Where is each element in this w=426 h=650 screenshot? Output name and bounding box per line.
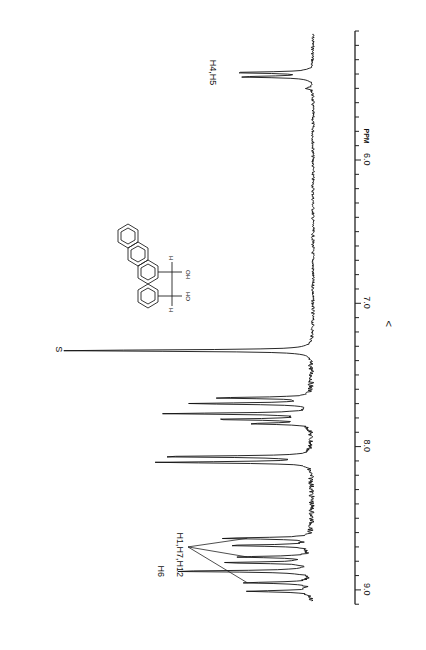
nmr-spectrum-chart: 6.07.08.09.0 PPM < H4,H5 S H6 H1,H7,H12 … (0, 0, 426, 650)
tick-label: 8.0 (362, 440, 372, 453)
tick-label: 9.0 (362, 583, 372, 596)
tick-label: 7.0 (362, 296, 372, 309)
tick-label: 6.0 (362, 153, 372, 166)
annotation-h6: H6 (156, 566, 166, 578)
axis-unit-label: PPM (363, 128, 370, 143)
molecule-structure-inset (118, 224, 182, 308)
annotation-h4-h5: H4,H5 (208, 60, 218, 86)
label-h-bottom: H (168, 308, 174, 312)
label-h-top: H (168, 256, 174, 260)
spectrum-trace (64, 34, 315, 601)
label-oh: OH (185, 270, 191, 279)
peak-marks (60, 72, 306, 591)
axis-ticks (355, 31, 361, 604)
direction-symbol: < (383, 320, 395, 326)
ring-upper-mid-inner (131, 246, 145, 262)
ring-top-inner (121, 228, 135, 244)
annotation-solvent: S (54, 346, 64, 352)
peak-annotations: H4,H5 S H6 H1,H7,H12 (54, 60, 247, 583)
ring-lower-mid-inner (141, 264, 155, 280)
ring-bottom-inner (141, 288, 155, 304)
structure-labels: OH HO H H (168, 256, 191, 312)
axis-tick-labels: 6.07.08.09.0 (362, 153, 372, 595)
annotation-h1-h7-h12: H1,H7,H12 (175, 533, 185, 578)
label-ho: HO (185, 292, 191, 301)
